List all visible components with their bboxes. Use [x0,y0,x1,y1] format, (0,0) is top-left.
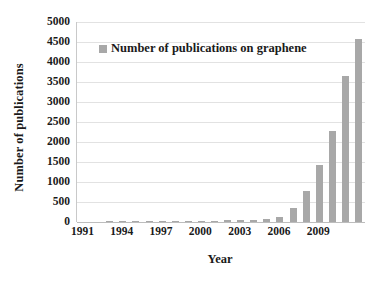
y-axis-title: Number of publications [12,33,27,223]
bar [303,191,310,222]
y-axis-tick-labels: 0500100015002000250030003500400045005000 [26,16,70,228]
y-axis-tick-label: 3500 [47,76,70,88]
y-axis-tick-label: 5000 [47,16,70,28]
y-axis-tick-label: 4500 [47,36,70,48]
legend-square-icon [99,45,107,53]
x-axis-tick-label: 2000 [189,226,212,238]
bar [237,220,244,222]
bar [132,221,139,222]
bar [342,76,349,222]
bar [146,221,153,222]
x-axis-tick-label: 2009 [307,226,330,238]
bar [119,221,126,222]
x-axis-tick-label: 2006 [267,226,290,238]
bar [185,221,192,222]
x-axis-tick-label: 2003 [228,226,251,238]
graphene-publications-bar-chart: Number of publications 05001000150020002… [0,0,380,284]
bar [106,221,113,222]
bar [250,220,257,222]
x-axis-tick-label: 1994 [110,226,133,238]
bar [172,221,179,222]
y-axis-tick-label: 2000 [47,136,70,148]
x-axis-title: Year [76,252,364,267]
x-axis-tick-labels: 1991199419972000200320062009 [76,226,364,244]
bar [290,208,297,222]
x-axis-tick-label: 1991 [71,226,94,238]
bar [276,217,283,222]
y-axis-tick-label: 3000 [47,96,70,108]
y-axis-tick-label: 1000 [47,176,70,188]
legend-label: Number of publications on graphene [111,41,307,56]
bar [263,219,270,222]
bar [159,221,166,222]
bar [211,221,218,222]
y-axis-tick-label: 2500 [47,116,70,128]
bar [316,165,323,222]
bar [355,39,362,222]
x-axis-tick-label: 1997 [150,226,173,238]
bar [224,220,231,222]
bar [198,221,205,222]
y-axis-tick-label: 0 [64,216,70,228]
y-axis-tick-label: 500 [53,196,70,208]
gridline [77,222,365,223]
y-axis-tick-label: 1500 [47,156,70,168]
bar [329,131,336,222]
chart-legend: Number of publications on graphene [99,41,307,56]
y-axis-tick-label: 4000 [47,56,70,68]
